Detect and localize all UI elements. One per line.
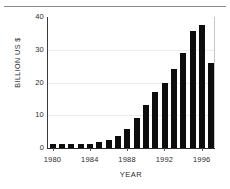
plot-area bbox=[47, 17, 215, 148]
bar-series bbox=[48, 17, 214, 148]
y-tick-label-40: 40 bbox=[30, 13, 44, 21]
bar bbox=[124, 129, 130, 148]
bar bbox=[106, 140, 112, 148]
x-tick-mark-1996 bbox=[202, 148, 203, 151]
bar bbox=[134, 118, 140, 148]
x-axis-line bbox=[47, 148, 215, 149]
x-tick-label-1984: 1984 bbox=[75, 155, 105, 164]
chart-figure: 40 30 20 10 0 BILLION US $ 1980 1984 198… bbox=[0, 0, 230, 189]
x-tick-label-1992: 1992 bbox=[149, 155, 179, 164]
y-axis-title: BILLION US $ bbox=[13, 28, 22, 98]
x-axis-title: YEAR bbox=[47, 170, 215, 179]
y-tick-label-20: 20 bbox=[30, 79, 44, 87]
x-tick-mark-1980 bbox=[53, 148, 54, 151]
x-tick-label-1996: 1996 bbox=[187, 155, 217, 164]
y-tick-label-0: 0 bbox=[30, 144, 44, 152]
x-tick-mark-1984 bbox=[90, 148, 91, 151]
bar bbox=[115, 136, 121, 148]
x-tick-mark-1988 bbox=[127, 148, 128, 151]
bar bbox=[162, 83, 168, 148]
y-tick-label-30: 30 bbox=[30, 46, 44, 54]
x-tick-mark-1992 bbox=[164, 148, 165, 151]
y-tick-label-10: 10 bbox=[30, 111, 44, 119]
x-tick-label-1988: 1988 bbox=[112, 155, 142, 164]
bar bbox=[199, 25, 205, 148]
bar bbox=[180, 53, 186, 148]
bar bbox=[190, 31, 196, 148]
bar bbox=[143, 105, 149, 148]
x-tick-label-1980: 1980 bbox=[38, 155, 68, 164]
bar bbox=[208, 63, 214, 148]
bar bbox=[171, 69, 177, 148]
bar bbox=[152, 92, 158, 148]
